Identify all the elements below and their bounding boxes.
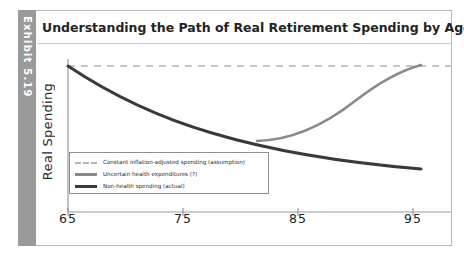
- legend-label-non-health-spending: Non-health spending (actual): [103, 183, 185, 190]
- legend-label-uncertain-health: Uncertain health expenditures (?): [103, 171, 197, 178]
- x-tick-label-95: 95: [404, 211, 422, 226]
- legend-swatch-dashed-line-icon: [75, 162, 97, 164]
- title-divider: [37, 43, 451, 44]
- exhibit-number-label: Exhibit 5.19: [22, 16, 33, 98]
- exhibit-number-tab: Exhibit 5.19: [18, 10, 36, 246]
- series-uncertain-health-expenditures: [257, 65, 421, 141]
- legend-swatch-gray-line-icon: [75, 173, 97, 176]
- plot-area: [37, 45, 451, 245]
- legend-swatch-dark-line-icon: [75, 185, 97, 188]
- chart-title: Understanding the Path of Real Retiremen…: [42, 16, 446, 40]
- legend-item-uncertain-health: Uncertain health expenditures (?): [75, 169, 263, 180]
- x-tick-label-85: 85: [289, 211, 307, 226]
- chart-legend: Constant inflation-adjusted spending (as…: [69, 152, 269, 194]
- legend-item-constant-spending: Constant inflation-adjusted spending (as…: [75, 157, 263, 168]
- legend-label-constant-spending: Constant inflation-adjusted spending (as…: [103, 159, 245, 166]
- x-tick-label-65: 65: [59, 211, 77, 226]
- exhibit-page: Exhibit 5.19 Understanding the Path of R…: [0, 0, 464, 269]
- x-tick-label-75: 75: [174, 211, 192, 226]
- legend-item-non-health-spending: Non-health spending (actual): [75, 181, 263, 192]
- chart-svg: [37, 45, 451, 245]
